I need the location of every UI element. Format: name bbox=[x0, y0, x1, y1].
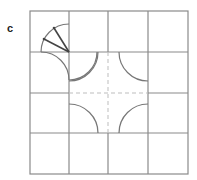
corner-arcs bbox=[69, 52, 148, 133]
grid-diagram bbox=[0, 0, 197, 180]
grid-lines bbox=[30, 11, 188, 174]
fan-sector bbox=[41, 24, 69, 52]
center-dashed-lines bbox=[69, 52, 148, 133]
